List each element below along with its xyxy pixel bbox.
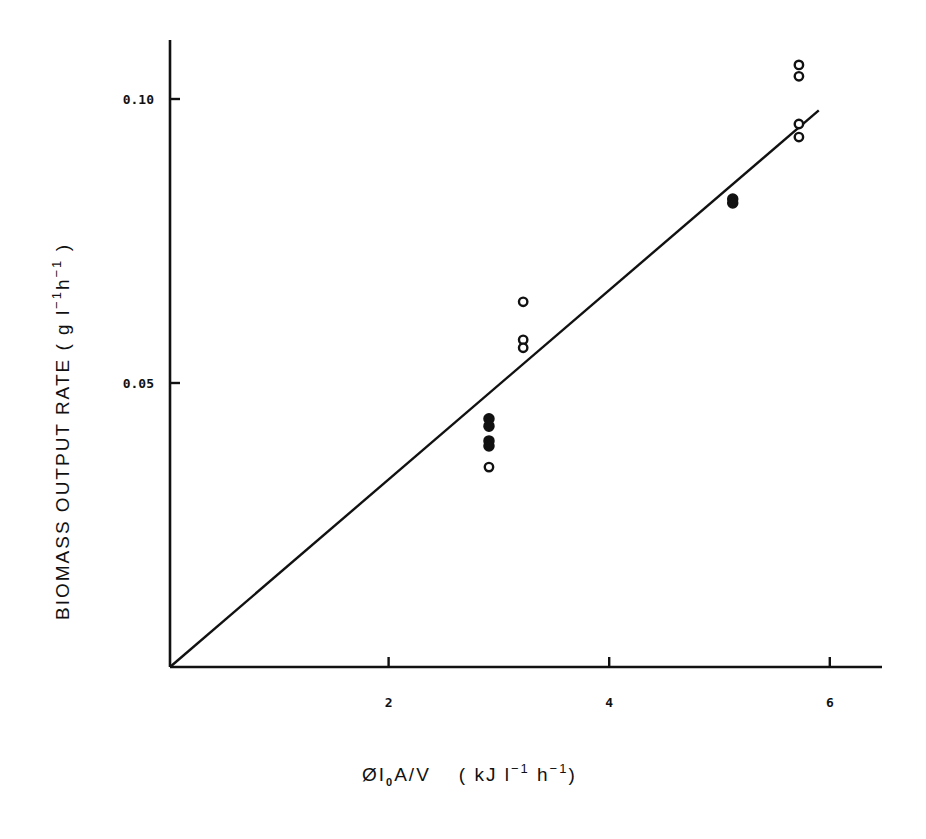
y-tick-label: 0.10	[123, 92, 154, 107]
x-ticks: 246	[385, 657, 834, 710]
x-tick-label: 2	[385, 695, 393, 710]
x-axis-title: ØI0A/V( kJ l−1 h−1)	[362, 761, 577, 788]
open-data-point	[519, 298, 527, 306]
x-tick-label: 4	[605, 695, 613, 710]
data-points	[484, 61, 803, 472]
filled-data-point	[728, 198, 738, 208]
open-data-point	[795, 133, 803, 141]
chart: 0.050.10 246 ØI0A/V( kJ l−1 h−1) BIOMASS…	[0, 0, 926, 839]
regression-line	[170, 110, 819, 667]
open-data-point	[795, 120, 803, 128]
open-data-point	[485, 463, 493, 471]
filled-data-point	[484, 421, 494, 431]
fit-line	[170, 110, 819, 667]
open-data-point	[795, 72, 803, 80]
y-ticks: 0.050.10	[123, 92, 180, 391]
open-data-point	[795, 61, 803, 69]
axes	[170, 40, 882, 667]
open-data-point	[519, 344, 527, 352]
y-axis-title: BIOMASS OUTPUT RATE ( g l−1h−1 )	[49, 243, 73, 620]
x-tick-label: 6	[826, 695, 834, 710]
filled-data-point	[484, 441, 494, 451]
y-tick-label: 0.05	[123, 376, 154, 391]
